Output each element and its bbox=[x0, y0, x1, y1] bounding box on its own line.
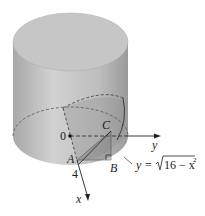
curve-equation: y = 16 − x 2 bbox=[135, 156, 197, 172]
x-axis-label: x bbox=[75, 192, 82, 206]
point-c-label: C bbox=[102, 118, 111, 132]
point-a-label: A bbox=[66, 152, 75, 166]
cylinder-wedge-diagram: 0 A B C 4 x y y = 16 − x 2 bbox=[0, 0, 205, 216]
radius-tick-label: 4 bbox=[72, 167, 78, 181]
equation-radicand: 16 − x bbox=[164, 158, 195, 172]
equation-lhs: y = bbox=[135, 158, 152, 172]
point-b-label: B bbox=[110, 161, 118, 175]
equation-exponent: 2 bbox=[193, 156, 197, 164]
y-axis-label: y bbox=[151, 138, 158, 152]
curve-pointer bbox=[124, 157, 132, 164]
cylinder-top bbox=[13, 13, 128, 71]
origin-point bbox=[68, 134, 72, 138]
x-axis-arrow bbox=[85, 194, 90, 201]
origin-label: 0 bbox=[60, 129, 66, 143]
